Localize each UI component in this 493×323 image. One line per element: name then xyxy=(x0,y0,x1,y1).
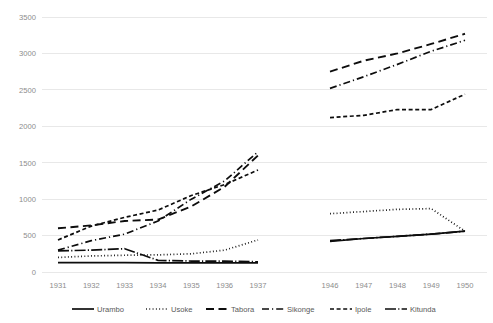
y-tick-label: 500 xyxy=(23,231,36,240)
x-tick-label: 1946 xyxy=(322,281,339,290)
y-tick-label: 3500 xyxy=(19,13,36,22)
legend-label-ipole: Ipole xyxy=(355,305,371,314)
x-tick-label: 1932 xyxy=(83,281,100,290)
x-axis-tick-labels: 1931193219331934193519361937194619471948… xyxy=(50,281,474,290)
x-tick-label: 1931 xyxy=(50,281,67,290)
series-line-ipole xyxy=(58,170,258,240)
series-line-ipole xyxy=(330,94,465,117)
line-chart: 0500100015002000250030003500 19311932193… xyxy=(0,0,493,323)
x-tick-label: 1948 xyxy=(389,281,406,290)
series-line-usoke xyxy=(58,240,258,257)
legend-label-tabora: Tabora xyxy=(231,305,255,314)
x-tick-label: 1950 xyxy=(457,281,474,290)
y-tick-label: 1500 xyxy=(19,159,36,168)
y-tick-label: 0 xyxy=(32,268,36,277)
data-series xyxy=(58,34,465,263)
series-line-kitunda xyxy=(58,249,258,262)
legend-label-usoke: Usoke xyxy=(171,305,193,314)
x-tick-label: 1935 xyxy=(183,281,200,290)
y-tick-label: 1000 xyxy=(19,195,36,204)
x-tick-label: 1934 xyxy=(150,281,167,290)
series-line-tabora xyxy=(58,155,258,228)
x-tick-label: 1936 xyxy=(216,281,233,290)
legend-label-urambo: Urambo xyxy=(97,305,124,314)
y-tick-label: 2500 xyxy=(19,86,36,95)
x-tick-label: 1933 xyxy=(116,281,133,290)
y-tick-label: 3000 xyxy=(19,49,36,58)
legend-label-sikonge: Sikonge xyxy=(287,305,314,314)
x-tick-label: 1949 xyxy=(423,281,440,290)
y-tick-label: 2000 xyxy=(19,122,36,131)
x-tick-label: 1947 xyxy=(355,281,372,290)
legend-label-kitunda: Kitunda xyxy=(410,305,437,314)
chart-legend: UramboUsokeTaboraSikongeIpoleKitunda xyxy=(72,305,437,314)
chart-canvas: 0500100015002000250030003500 19311932193… xyxy=(0,0,493,323)
series-line-sikonge xyxy=(330,40,465,88)
y-axis-tick-labels: 0500100015002000250030003500 xyxy=(19,13,36,277)
series-line-tabora xyxy=(330,34,465,72)
x-tick-label: 1937 xyxy=(250,281,267,290)
series-line-usoke xyxy=(330,209,465,232)
